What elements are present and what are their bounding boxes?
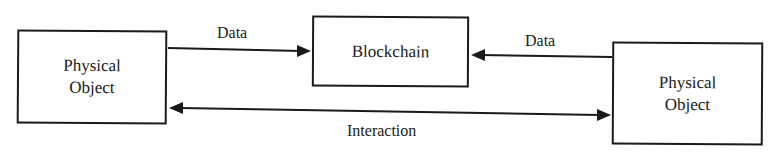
arrowhead-left-icon bbox=[471, 49, 485, 61]
node-label: Physical Object bbox=[63, 55, 121, 99]
blockchain-node: Blockchain bbox=[312, 16, 469, 88]
physical-object-left-node: Physical Object bbox=[17, 29, 168, 124]
edge-label-interaction: Interaction bbox=[347, 122, 416, 140]
edge-interaction-bidirectional bbox=[169, 102, 611, 121]
arrowhead-right-icon bbox=[297, 45, 311, 57]
edge-label-data-left: Data bbox=[217, 24, 247, 42]
node-label: Blockchain bbox=[352, 40, 430, 62]
edge-data-left-to-blockchain bbox=[168, 45, 311, 57]
arrowhead-left-icon bbox=[169, 102, 183, 114]
edge-data-right-to-blockchain bbox=[471, 49, 612, 61]
physical-object-right-node: Physical Object bbox=[612, 42, 764, 146]
node-label: Physical Object bbox=[659, 71, 717, 115]
arrowhead-right-icon bbox=[597, 109, 611, 121]
edge-label-data-right: Data bbox=[525, 32, 555, 50]
blockchain-physical-object-diagram: Physical Object Blockchain Physical Obje… bbox=[0, 0, 781, 160]
